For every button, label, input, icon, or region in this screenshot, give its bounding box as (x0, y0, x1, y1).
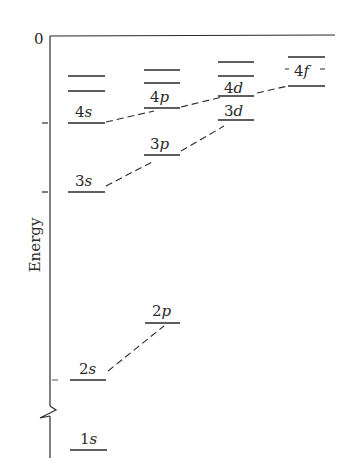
energy-axis-label: Energy (26, 217, 44, 272)
zero-label: 0 (34, 30, 44, 48)
connector-3p-3d (181, 126, 224, 151)
zero-energy-line (50, 35, 335, 36)
label-3d: 3d (224, 102, 243, 120)
connector-4p-4d (181, 97, 222, 107)
label-4d: 4d (224, 79, 243, 97)
label-3s: 3s (75, 172, 93, 190)
connector-3s-3p (106, 161, 154, 186)
label-4s: 4s (75, 103, 93, 121)
label-2p: 2p (152, 302, 172, 320)
connector-4s-4p (106, 111, 154, 122)
level-labels: 4s 3s 2s 1s 4p 3p 2p 4d 3d 4f (75, 62, 312, 448)
connector-2s-2p (108, 326, 164, 371)
connector-4d-4f (257, 86, 288, 93)
axis-break-icon (40, 406, 56, 418)
label-4p: 4p (150, 88, 170, 106)
p-levels (144, 70, 180, 323)
label-3p: 3p (150, 135, 170, 153)
label-4f: 4f (294, 62, 312, 80)
label-2s: 2s (79, 360, 97, 378)
axes (40, 35, 335, 458)
energy-level-diagram: 0 Energy (0, 0, 344, 468)
connectors (106, 86, 288, 371)
label-1s: 1s (80, 430, 98, 448)
s-levels (68, 76, 107, 450)
